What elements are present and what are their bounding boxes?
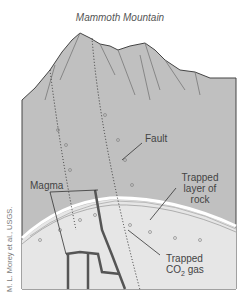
magma-label: Magma [30,180,63,191]
fault-label: Fault [145,133,167,144]
image-credit: M. L. Morey et al., USGS. [5,207,14,292]
cross-section-illustration [0,0,251,304]
trapped-gas-label: Trapped CO2 gas [166,253,204,279]
trapped-rock-label: Trapped layer of rock [178,172,222,205]
